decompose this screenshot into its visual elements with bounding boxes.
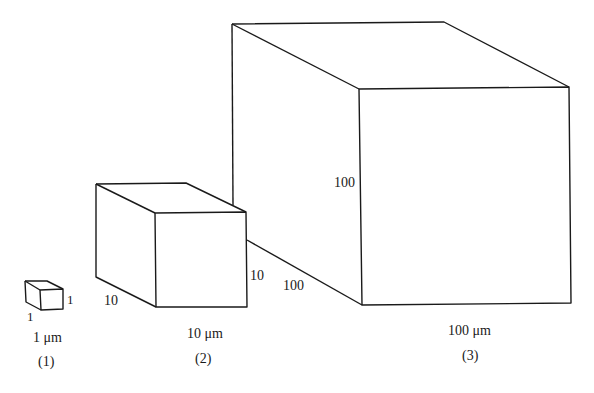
cube-3 [232,22,571,305]
cube-2 [96,183,247,307]
cube-1 [25,281,63,310]
cube-3-height-label: 100 [334,176,355,190]
cube-3-depth-label: 100 [283,279,304,293]
cubes-diagram [0,0,594,393]
cube-1-size-label: 1 μm [33,331,62,345]
cube-1-caption: (1) [38,355,54,369]
cube-2-height-label: 10 [250,269,264,283]
cube-2-size-label: 10 μm [187,327,223,341]
cube-3-size-label: 100 μm [448,324,491,338]
cube-1-depth-label: 1 [27,310,34,323]
cube-2-caption: (2) [195,352,211,366]
cube-2-depth-label: 10 [104,294,118,308]
cube-3-caption: (3) [462,349,478,363]
cube-1-height-label: 1 [67,293,74,306]
